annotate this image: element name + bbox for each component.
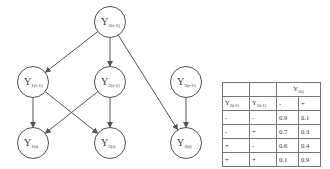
node-Y2_t-2: Y2(t-2) — [95, 7, 126, 38]
cpt-cell: - — [223, 111, 250, 125]
cpt-cell: 0.9 — [299, 153, 321, 167]
cpt-cell: 0.7 — [277, 125, 299, 139]
cpt-row: ++0.10.9 — [223, 153, 321, 167]
node-Y1_t: Y1(t) — [18, 128, 49, 159]
cpt-cell: + — [250, 153, 277, 167]
cpt-empty-cell — [223, 83, 250, 97]
cpt-cell: 0.4 — [299, 139, 321, 153]
cpt-row: -+0.70.3 — [223, 125, 321, 139]
edge-arrow — [118, 35, 177, 129]
cpt-cell: 0.9 — [277, 111, 299, 125]
cpt-row: +-0.60.4 — [223, 139, 321, 153]
cpt-cell: 0.6 — [277, 139, 299, 153]
node-Y1_t-1: Y1(t-1) — [18, 67, 49, 98]
edge-arrow — [46, 32, 98, 73]
conditional-probability-table: Y3(t) Y2(t-2) Y3(t-1) - + --0.90.1 -+0.7… — [222, 82, 321, 167]
cpt-cell: + — [223, 153, 250, 167]
node-Y2_t: Y2(t) — [95, 128, 126, 159]
cpt-minus-header: - — [277, 97, 299, 111]
cpt-plus-header: + — [299, 97, 321, 111]
cpt-cell: - — [250, 111, 277, 125]
cpt-target-header: Y3(t) — [277, 83, 321, 97]
cpt-cell: 0.3 — [299, 125, 321, 139]
cpt-parent2-header: Y3(t-1) — [250, 97, 277, 111]
cpt-parent1-header: Y2(t-2) — [223, 97, 250, 111]
cpt-cell: + — [250, 125, 277, 139]
cpt-cell: - — [223, 125, 250, 139]
node-Y3_t: Y3(t) — [171, 128, 202, 159]
cpt-cell: + — [223, 139, 250, 153]
cpt-cell: 0.1 — [277, 153, 299, 167]
node-Y3_t-1: Y3(t-1) — [171, 67, 202, 98]
cpt-cell: - — [250, 139, 277, 153]
cpt-cell: 0.1 — [299, 111, 321, 125]
bayesian-network-graph: Y2(t-2)Y1(t-1)Y2(t-1)Y3(t-1)Y1(t)Y2(t)Y3… — [0, 0, 220, 169]
cpt-empty-cell — [250, 83, 277, 97]
node-Y2_t-1: Y2(t-1) — [95, 67, 126, 98]
cpt-row: --0.90.1 — [223, 111, 321, 125]
